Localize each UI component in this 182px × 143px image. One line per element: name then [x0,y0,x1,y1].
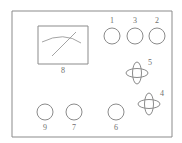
control-panel-drawing: 8 132976 54 [0,0,182,143]
callout-label-8: 8 [61,66,65,75]
round-control-7[interactable]: 7 [66,104,82,132]
knob-control-group: 54 [126,58,164,115]
round-button-2[interactable] [149,28,165,44]
meter-gauge[interactable]: 8 [38,26,88,75]
rotary-knob-4[interactable]: 4 [138,89,164,115]
round-control-3[interactable]: 3 [127,16,143,44]
round-control-6[interactable]: 6 [108,104,124,132]
callout-label-3: 3 [133,16,137,25]
round-button-1[interactable] [104,28,120,44]
round-control-9[interactable]: 9 [37,104,53,132]
round-control-2[interactable]: 2 [149,16,165,44]
knob-horizontal-ellipse-4 [138,100,160,109]
rotary-knob-5[interactable]: 5 [126,58,152,84]
callout-label-2: 2 [155,16,159,25]
callout-label-9: 9 [43,123,47,132]
callout-label-4: 4 [160,89,164,98]
round-button-3[interactable] [127,28,143,44]
callout-label-6: 6 [114,123,118,132]
round-control-1[interactable]: 1 [104,16,120,44]
round-control-group: 132976 [37,16,165,132]
callout-label-5: 5 [148,58,152,67]
control-panel-figure: 8 132976 54 [0,0,182,143]
callout-label-1: 1 [110,16,114,25]
knob-vertical-ellipse-5 [133,62,142,84]
round-button-6[interactable] [108,104,124,120]
round-button-7[interactable] [66,104,82,120]
round-button-9[interactable] [37,104,53,120]
knob-horizontal-ellipse-5 [126,69,148,78]
knob-vertical-ellipse-4 [145,93,154,115]
meter-scale-arc [42,37,81,43]
callout-label-7: 7 [72,123,76,132]
meter-needle [52,32,76,56]
